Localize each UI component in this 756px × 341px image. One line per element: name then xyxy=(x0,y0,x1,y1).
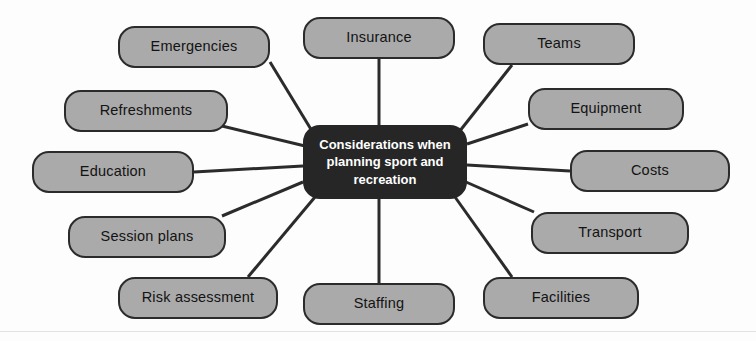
connector-session-plans xyxy=(222,182,303,216)
node-emergencies[interactable]: Emergencies xyxy=(118,26,270,68)
connector-transport xyxy=(466,182,534,212)
node-session-plans[interactable]: Session plans xyxy=(68,216,226,258)
node-staffing[interactable]: Staffing xyxy=(303,283,455,325)
node-teams[interactable]: Teams xyxy=(483,23,635,65)
connector-equipment xyxy=(467,124,528,144)
connector-refreshments xyxy=(222,126,305,146)
mind-map-canvas: Considerations when planning sport and r… xyxy=(0,0,756,341)
node-education[interactable]: Education xyxy=(32,151,194,193)
connector-facilities xyxy=(455,197,512,277)
connector-costs xyxy=(467,165,570,171)
node-insurance[interactable]: Insurance xyxy=(303,17,455,59)
node-equipment[interactable]: Equipment xyxy=(528,88,684,130)
node-costs[interactable]: Costs xyxy=(570,150,730,192)
connector-risk-assessment xyxy=(248,197,315,277)
page-edge-line xyxy=(0,331,756,332)
connector-emergencies xyxy=(270,62,312,131)
center-node: Considerations when planning sport and r… xyxy=(303,125,467,199)
connector-teams xyxy=(459,65,512,132)
node-risk-assessment[interactable]: Risk assessment xyxy=(118,277,278,319)
node-facilities[interactable]: Facilities xyxy=(483,277,639,319)
node-transport[interactable]: Transport xyxy=(531,212,689,254)
connector-education xyxy=(194,166,303,172)
node-refreshments[interactable]: Refreshments xyxy=(64,90,228,132)
